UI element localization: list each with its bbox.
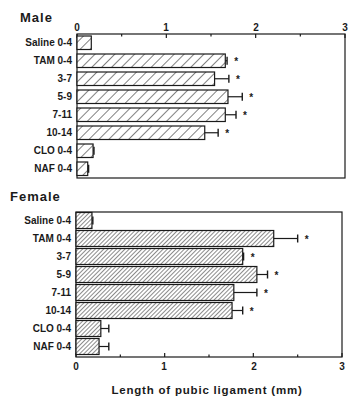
significance-marker: * bbox=[225, 128, 229, 139]
category-label: TAM 0-4 bbox=[34, 55, 73, 66]
female-tick-3: 3 bbox=[339, 361, 345, 372]
category-label: 7-11 bbox=[53, 109, 73, 120]
bar bbox=[77, 162, 88, 176]
male-tick-3: 3 bbox=[342, 22, 348, 33]
category-label: 3-7 bbox=[57, 251, 72, 262]
category-label: 3-7 bbox=[58, 73, 73, 84]
category-label: 5-9 bbox=[57, 269, 72, 280]
female-title: Female bbox=[10, 189, 61, 204]
significance-marker: * bbox=[250, 306, 254, 317]
female-category-labels: Saline 0-4TAM 0-43-75-97-1110-14CLO 0-4N… bbox=[24, 215, 71, 352]
significance-marker: * bbox=[249, 92, 253, 103]
male-tick-0: 0 bbox=[74, 22, 80, 33]
category-label: 7-11 bbox=[52, 287, 72, 298]
bar bbox=[77, 54, 225, 68]
bar bbox=[77, 126, 205, 140]
bar bbox=[77, 90, 228, 104]
bar bbox=[76, 285, 234, 301]
bar bbox=[76, 249, 243, 265]
category-label: 10-14 bbox=[46, 127, 72, 138]
male-tick-2: 2 bbox=[253, 22, 259, 33]
bar bbox=[77, 72, 215, 86]
bar bbox=[77, 108, 225, 122]
male-title: Male bbox=[20, 10, 53, 25]
category-label: TAM 0-4 bbox=[33, 233, 72, 244]
category-label: 5-9 bbox=[58, 91, 73, 102]
significance-marker: * bbox=[251, 252, 255, 263]
category-label: NAF 0-4 bbox=[34, 163, 72, 174]
female-bars: ***** bbox=[76, 213, 309, 355]
x-axis-title: Length of pubic ligament (mm) bbox=[111, 384, 302, 396]
category-label: CLO 0-4 bbox=[34, 145, 73, 156]
female-tick-marks bbox=[76, 353, 342, 357]
bar bbox=[77, 36, 91, 50]
category-label: NAF 0-4 bbox=[33, 341, 71, 352]
bar bbox=[76, 321, 101, 337]
bar bbox=[76, 339, 99, 355]
female-tick-2: 2 bbox=[251, 361, 257, 372]
significance-marker: * bbox=[243, 110, 247, 121]
bar bbox=[76, 267, 257, 283]
bar bbox=[76, 303, 232, 319]
female-x-axis: 0 1 2 3 bbox=[73, 361, 345, 372]
male-panel: Male 0 1 2 3 Saline 0-4TAM 0-43-75-97-11… bbox=[20, 10, 348, 178]
significance-marker: * bbox=[275, 270, 279, 281]
chart-figure: Male 0 1 2 3 Saline 0-4TAM 0-43-75-97-11… bbox=[0, 0, 359, 407]
male-bars: ***** bbox=[77, 36, 253, 176]
category-label: 10-14 bbox=[45, 305, 71, 316]
category-label: Saline 0-4 bbox=[24, 215, 71, 226]
female-tick-1: 1 bbox=[161, 361, 167, 372]
male-x-axis: 0 1 2 3 bbox=[74, 22, 348, 33]
female-panel: Female Saline 0-4TAM 0-43-75-97-1110-14C… bbox=[10, 189, 345, 396]
significance-marker: * bbox=[234, 56, 238, 67]
male-category-labels: Saline 0-4TAM 0-43-75-97-1110-14CLO 0-4N… bbox=[25, 37, 72, 174]
female-tick-0: 0 bbox=[73, 361, 79, 372]
significance-marker: * bbox=[305, 234, 309, 245]
category-label: Saline 0-4 bbox=[25, 37, 72, 48]
significance-marker: * bbox=[236, 74, 240, 85]
bar bbox=[76, 231, 274, 247]
significance-marker: * bbox=[264, 288, 268, 299]
category-label: CLO 0-4 bbox=[33, 323, 72, 334]
bar bbox=[76, 213, 92, 229]
bar bbox=[77, 144, 93, 158]
male-tick-1: 1 bbox=[163, 22, 169, 33]
